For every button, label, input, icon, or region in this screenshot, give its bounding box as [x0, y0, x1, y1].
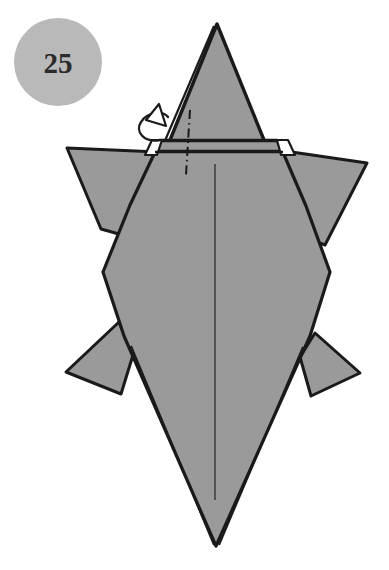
shell-body	[103, 150, 330, 546]
origami-figure	[66, 24, 367, 546]
step-number-badge: 25	[14, 18, 102, 106]
diagram-page: 25	[0, 0, 389, 570]
tuck-loop-arrow-head	[146, 104, 166, 126]
head-point	[168, 24, 266, 145]
step-badge-label: 25	[44, 47, 73, 79]
origami-diagram-canvas: 25	[0, 0, 389, 570]
tuck-loop-arrow	[139, 104, 168, 140]
right-rear-flipper	[300, 333, 360, 396]
